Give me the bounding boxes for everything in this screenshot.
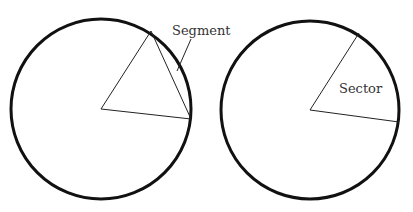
diagram-svg: Segment Sector [0,0,413,212]
segment-label: Segment [172,23,231,38]
circle-parts-diagram: Segment Sector [0,0,413,212]
sector-label: Sector [339,81,383,96]
segment-triangle [101,31,191,119]
sector-radius-lower [310,110,399,122]
segment-pointer-line [177,39,191,71]
sector-figure: Sector [221,21,399,199]
sector-radius-upper [310,33,359,110]
segment-figure: Segment [11,19,231,199]
